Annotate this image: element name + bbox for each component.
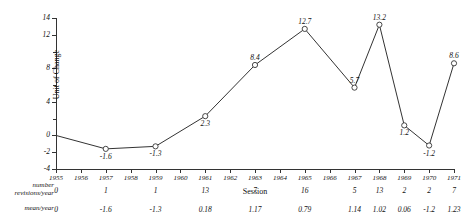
data-point-label: -1.3: [141, 149, 171, 158]
table-cell: 0: [41, 186, 71, 195]
data-table: numberrevisions/year01113716513227mean/y…: [0, 182, 466, 222]
table-cell: 0.18: [190, 205, 220, 214]
x-tick-label: 1971: [443, 174, 465, 182]
y-tick-label: -4: [30, 164, 50, 173]
data-point-marker: [153, 144, 158, 149]
data-point-label: 1.2: [389, 128, 419, 137]
x-tick-label: 1956: [70, 174, 92, 182]
y-tick-label: 0: [30, 130, 50, 139]
y-tick-label: -2: [30, 147, 50, 156]
table-cell: 13: [190, 186, 220, 195]
x-tick-label: 1962: [219, 174, 241, 182]
x-tick: [454, 169, 455, 173]
table-cell: 1.23: [439, 205, 466, 214]
x-tick-label: 1969: [393, 174, 415, 182]
table-cell: -1.6: [91, 205, 121, 214]
table-cell: 1.17: [240, 205, 270, 214]
data-series: [56, 18, 454, 170]
x-tick-label: 1960: [169, 174, 191, 182]
data-point-label: -1.2: [414, 149, 444, 158]
x-tick-label: 1970: [418, 174, 440, 182]
chart-figure: 1412840-2-4 1955195619571958195919601961…: [0, 0, 466, 222]
plot-area: 1412840-2-4 1955195619571958195919601961…: [56, 18, 454, 170]
data-point-marker: [402, 123, 407, 128]
x-tick-label: 1968: [368, 174, 390, 182]
y-tick-label: 12: [30, 30, 50, 39]
x-tick-label: 1967: [344, 174, 366, 182]
x-tick-label: 1959: [145, 174, 167, 182]
data-point-marker: [352, 85, 357, 90]
data-point-label: 13.2: [364, 13, 394, 22]
table-cell: 16: [290, 186, 320, 195]
table-cell: -1.3: [141, 205, 171, 214]
data-point-label: 8.6: [439, 51, 466, 60]
data-point-label: 12.7: [290, 17, 320, 26]
table-cell: 1: [91, 186, 121, 195]
y-tick-label: 4: [30, 97, 50, 106]
x-tick-label: 1963: [244, 174, 266, 182]
x-tick-label: 1966: [319, 174, 341, 182]
y-tick-label: 8: [30, 63, 50, 72]
data-point-marker: [427, 143, 432, 148]
table-cell: 7: [240, 186, 270, 195]
data-point-label: 8.4: [240, 53, 270, 62]
data-point-marker: [302, 26, 307, 31]
data-point-label: 2.3: [190, 119, 220, 128]
data-point-marker: [377, 22, 382, 27]
x-tick-label: 1961: [194, 174, 216, 182]
table-cell: 7: [439, 186, 466, 195]
x-tick-label: 1965: [294, 174, 316, 182]
data-point-marker: [451, 61, 456, 66]
x-tick-label: 1964: [269, 174, 291, 182]
data-point-marker: [203, 114, 208, 119]
data-point-label: 5.7: [340, 76, 370, 85]
data-point-marker: [252, 62, 257, 67]
table-cell: 0.79: [290, 205, 320, 214]
y-tick-label: 14: [30, 13, 50, 22]
x-tick-label: 1957: [95, 174, 117, 182]
table-cell: 1: [141, 186, 171, 195]
x-tick-label: 1958: [120, 174, 142, 182]
data-point-label: -1.6: [91, 152, 121, 161]
table-cell: 0: [41, 205, 71, 214]
data-point-marker: [103, 146, 108, 151]
